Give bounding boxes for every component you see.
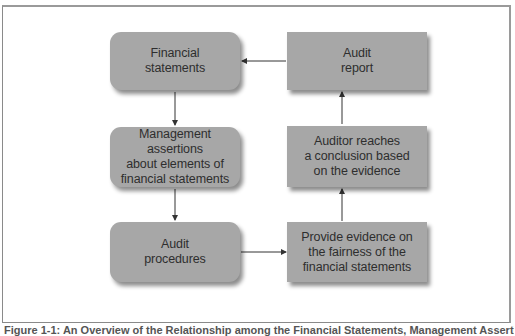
figure-caption: Figure 1-1: An Overview of the Relations… <box>4 324 514 336</box>
node-provide-evidence: Provide evidence on the fairness of the … <box>287 222 427 282</box>
node-management-assertions: Management assertions about elements of … <box>110 127 240 187</box>
node-label: Management assertions about elements of … <box>114 127 236 187</box>
node-audit-report: Audit report <box>287 32 427 90</box>
node-auditor-conclusion: Auditor reaches a conclusion based on th… <box>287 126 427 187</box>
node-audit-procedures: Audit procedures <box>110 222 240 282</box>
figure-frame <box>2 5 511 323</box>
node-label: Financial statements <box>145 46 205 76</box>
node-label: Provide evidence on the fairness of the … <box>301 230 412 275</box>
node-financial-statements: Financial statements <box>110 32 240 90</box>
node-label: Audit procedures <box>144 237 206 267</box>
node-label: Auditor reaches a conclusion based on th… <box>304 134 409 179</box>
node-label: Audit report <box>341 46 373 76</box>
